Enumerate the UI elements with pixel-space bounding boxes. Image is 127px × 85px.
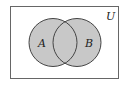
set-b-label: B [84, 37, 93, 50]
universe-label: U [106, 10, 116, 23]
venn-diagram: A B U [0, 0, 127, 85]
set-a-label: A [37, 37, 46, 50]
